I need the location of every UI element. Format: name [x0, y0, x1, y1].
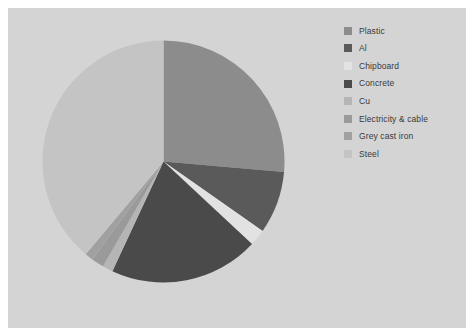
legend-swatch-icon [344, 62, 352, 70]
legend-swatch-icon [344, 150, 352, 158]
legend-item[interactable]: Concrete [344, 75, 462, 93]
legend-item[interactable]: Cu [344, 92, 462, 110]
legend-item[interactable]: Steel [344, 145, 462, 163]
chart-panel: PlasticAlChipboardConcreteCuElectricity … [8, 8, 466, 328]
legend-item-label: Steel [359, 150, 379, 159]
legend-swatch-icon [344, 80, 352, 88]
chart-legend: PlasticAlChipboardConcreteCuElectricity … [344, 22, 462, 163]
legend-item-label: Al [359, 44, 367, 53]
pie-chart-svg [42, 40, 285, 283]
legend-item-label: Concrete [359, 79, 394, 88]
pie-chart [42, 40, 285, 283]
legend-item-label: Electricity & cable [359, 115, 428, 124]
legend-swatch-icon [344, 44, 352, 52]
legend-item[interactable]: Chipboard [344, 57, 462, 75]
legend-item-label: Cu [359, 97, 370, 106]
legend-item[interactable]: Grey cast iron [344, 128, 462, 146]
legend-item[interactable]: Al [344, 40, 462, 58]
legend-item-label: Grey cast iron [359, 132, 413, 141]
legend-swatch-icon [344, 132, 352, 140]
legend-swatch-icon [344, 27, 352, 35]
legend-item-label: Chipboard [359, 62, 399, 71]
legend-item[interactable]: Electricity & cable [344, 110, 462, 128]
legend-item-label: Plastic [359, 27, 385, 36]
legend-swatch-icon [344, 97, 352, 105]
legend-item[interactable]: Plastic [344, 22, 462, 40]
legend-swatch-icon [344, 115, 352, 123]
pie-slice[interactable] [164, 41, 285, 173]
